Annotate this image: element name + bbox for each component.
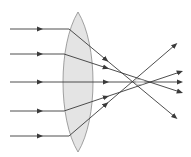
lens-ray-svg: [0, 0, 191, 157]
lens-diagram: Convex lens refracting parallel light ra…: [0, 0, 191, 157]
light-rays: [10, 29, 180, 136]
focal-point: [135, 80, 145, 85]
